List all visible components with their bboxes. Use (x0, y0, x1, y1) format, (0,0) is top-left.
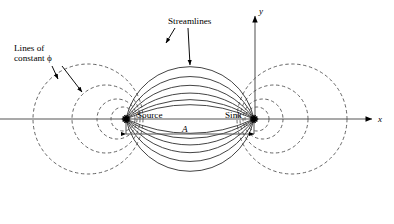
label-source: Source (137, 110, 163, 120)
figure-root: Lines of constant ϕ Streamlines Source S… (0, 0, 394, 224)
y-axis-label: y (259, 6, 263, 16)
annotation-lines-of-constant-phi: Lines of constant ϕ (14, 43, 52, 64)
dimension-label-A: A (182, 124, 188, 134)
leader-line (188, 28, 190, 65)
annotation-line-2: constant ϕ (14, 53, 52, 63)
callout-leader-lines (52, 28, 190, 92)
annotation-line-1: Lines of (14, 43, 52, 53)
leader-line (52, 66, 58, 79)
streamline-arc (126, 119, 254, 133)
marker-dot (251, 116, 256, 121)
streamline-arc (126, 119, 254, 161)
marker-dot (123, 116, 128, 121)
x-axis-label: x (378, 114, 382, 124)
flow-field-diagram (0, 0, 394, 224)
leader-line (166, 28, 175, 43)
streamline-arc (126, 119, 254, 145)
annotation-streamlines: Streamlines (168, 16, 211, 26)
streamline-arc (126, 119, 254, 153)
streamline-arc (126, 119, 254, 138)
annotation-line-1: Streamlines (168, 16, 211, 26)
axes-group (0, 16, 372, 119)
leader-line (62, 66, 82, 92)
label-sink: Sink (225, 110, 242, 120)
